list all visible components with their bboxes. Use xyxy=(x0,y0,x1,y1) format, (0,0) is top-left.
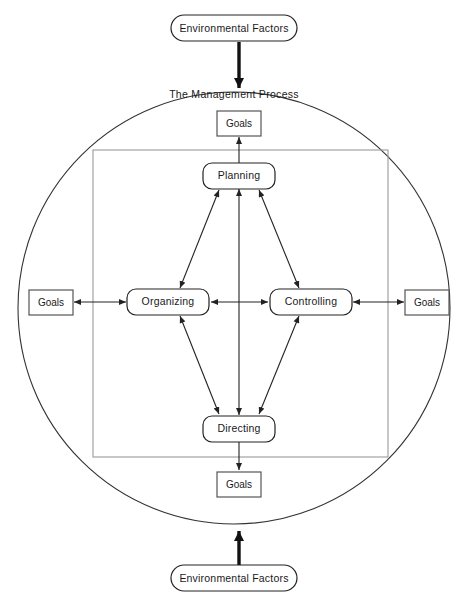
node-goals-left[interactable]: Goals xyxy=(29,290,73,315)
management-process-diagram: The Management Process Environmental Fac… xyxy=(0,0,469,603)
planning-label: Planning xyxy=(218,169,260,181)
node-environmental-factors-bottom[interactable]: Environmental Factors xyxy=(171,565,297,591)
node-environmental-factors-top[interactable]: Environmental Factors xyxy=(171,15,297,41)
node-planning[interactable]: Planning xyxy=(203,163,275,189)
node-directing[interactable]: Directing xyxy=(203,416,275,442)
node-goals-top[interactable]: Goals xyxy=(217,111,261,136)
connector-planning-controlling xyxy=(259,190,299,288)
connector-planning-organizing xyxy=(180,190,219,288)
organizing-label: Organizing xyxy=(142,295,195,307)
controlling-label: Controlling xyxy=(285,295,337,307)
management-process-boundary-circle xyxy=(18,92,450,524)
env-bottom-label: Environmental Factors xyxy=(179,572,288,584)
node-controlling[interactable]: Controlling xyxy=(270,289,352,315)
diagram-title: The Management Process xyxy=(169,88,299,100)
goals-bottom-label: Goals xyxy=(226,479,252,490)
connector-organizing-directing xyxy=(180,316,219,414)
goals-top-label: Goals xyxy=(226,118,252,129)
directing-label: Directing xyxy=(217,422,260,434)
goals-left-label: Goals xyxy=(38,297,64,308)
goals-right-label: Goals xyxy=(414,297,440,308)
node-goals-right[interactable]: Goals xyxy=(405,290,449,315)
diagram-canvas: The Management Process Environmental Fac… xyxy=(0,0,469,603)
node-organizing[interactable]: Organizing xyxy=(127,289,209,315)
node-goals-bottom[interactable]: Goals xyxy=(217,472,261,497)
connector-controlling-directing xyxy=(259,316,299,414)
env-top-label: Environmental Factors xyxy=(179,22,288,34)
